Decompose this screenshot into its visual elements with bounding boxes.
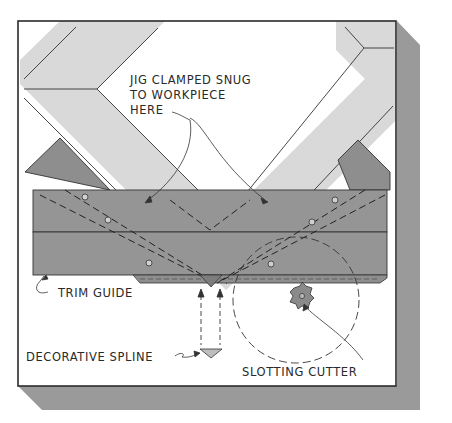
screw-icon [309,219,315,225]
screw-icon [268,261,274,267]
label-slotting-cutter: SLOTTING CUTTER [242,365,357,379]
screw-icon [332,197,338,203]
screw-icon [146,260,152,266]
label-decorative-spline: DECORATIVE SPLINE [26,350,153,364]
screw-icon [82,194,88,200]
label-trim-guide: TRIM GUIDE [57,286,133,300]
illustration: JIG CLAMPED SNUG TO WORKPIECE HERE TRIM … [0,0,452,423]
label-clamp-line3: HERE [130,103,164,117]
screw-icon [105,217,111,223]
trim-guide [133,275,387,283]
label-clamp-line1: JIG CLAMPED SNUG [129,73,251,87]
label-clamp-line2: TO WORKPIECE [129,88,226,102]
